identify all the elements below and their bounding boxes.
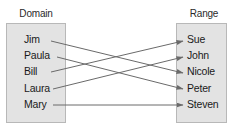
domain-item-bill: Bill — [24, 65, 37, 77]
domain-item-mary: Mary — [24, 98, 47, 110]
range-label: Range — [190, 8, 218, 19]
range-item-nicole: Nicole — [187, 65, 215, 77]
domain-item-paula: Paula — [24, 49, 50, 61]
arrow-bill-to-sue — [51, 41, 183, 72]
domain-item-laura: Laura — [24, 82, 50, 94]
range-item-peter: Peter — [187, 82, 211, 94]
arrow-jim-to-nicole — [51, 41, 183, 73]
domain-item-jim: Jim — [24, 33, 40, 45]
range-item-steven: Steven — [187, 98, 219, 110]
domain-label: Domain — [19, 8, 52, 19]
range-item-john: John — [187, 49, 209, 61]
arrow-laura-to-john — [53, 57, 183, 89]
range-item-sue: Sue — [187, 33, 205, 45]
arrow-paula-to-peter — [57, 57, 183, 89]
